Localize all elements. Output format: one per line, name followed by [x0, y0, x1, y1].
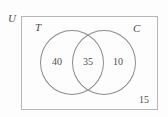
set-label-t: T [35, 22, 41, 33]
venn-diagram-figure: U T C 40 35 10 15 [0, 0, 168, 117]
universal-set-label: U [8, 13, 16, 24]
set-label-c: C [133, 23, 140, 34]
region-count-t-only: 40 [49, 57, 65, 67]
region-count-outside-sets: 15 [136, 95, 152, 105]
region-count-c-only: 10 [110, 57, 126, 67]
region-count-intersection: 35 [80, 57, 96, 67]
